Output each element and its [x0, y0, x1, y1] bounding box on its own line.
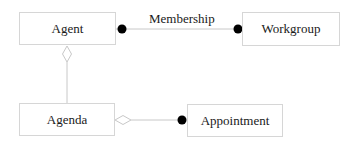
class-appointment-label: Appointment	[201, 113, 270, 129]
appointment-dot-icon	[178, 116, 187, 125]
agenda-aggregation-diamond-icon	[115, 116, 131, 125]
agent-membership-dot-icon	[118, 25, 127, 34]
class-agenda-label: Agenda	[47, 112, 87, 128]
class-appointment: Appointment	[187, 104, 283, 137]
class-agenda: Agenda	[19, 103, 115, 136]
class-agent: Agent	[19, 12, 116, 45]
class-agent-label: Agent	[52, 21, 84, 37]
membership-label: Membership	[149, 11, 215, 27]
agent-aggregation-diamond-icon	[63, 46, 72, 62]
class-workgroup-label: Workgroup	[262, 21, 321, 37]
uml-diagram: Agent Workgroup Agenda Appointment Membe…	[0, 0, 360, 151]
class-workgroup: Workgroup	[242, 12, 340, 46]
